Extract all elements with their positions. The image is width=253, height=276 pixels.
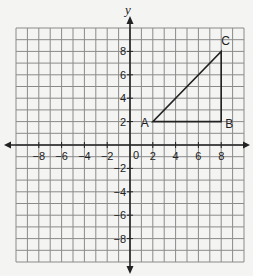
y-tick-label: −6 bbox=[113, 209, 126, 221]
y-tick-label: −8 bbox=[113, 233, 126, 245]
x-tick-label: 4 bbox=[173, 150, 179, 162]
vertex-label-c: C bbox=[221, 34, 230, 48]
x-tick-label: 6 bbox=[195, 150, 201, 162]
x-tick-label: 8 bbox=[218, 150, 224, 162]
y-tick-label: 4 bbox=[120, 92, 126, 104]
x-axis-left-arrow-icon bbox=[4, 142, 11, 149]
x-tick-label: −2 bbox=[101, 150, 114, 162]
y-tick-label: −2 bbox=[113, 162, 126, 174]
x-tick-label: −6 bbox=[55, 150, 68, 162]
y-tick-label: 8 bbox=[120, 45, 126, 57]
y-tick-label: 2 bbox=[120, 116, 126, 128]
y-axis-up-arrow-icon bbox=[127, 16, 134, 24]
vertex-label-a: A bbox=[141, 116, 149, 130]
y-axis-label: y bbox=[123, 2, 131, 17]
y-tick-label: 6 bbox=[120, 69, 126, 81]
x-tick-label: −8 bbox=[33, 150, 46, 162]
axes bbox=[4, 16, 250, 274]
coordinate-plane: −8−6−4−224688642−2−4−6−8 ABC y 0 bbox=[0, 0, 253, 276]
origin-label: 0 bbox=[133, 149, 139, 161]
y-tick-label: −4 bbox=[113, 186, 126, 198]
x-axis-right-arrow-icon bbox=[243, 142, 250, 149]
x-tick-label: 2 bbox=[150, 150, 156, 162]
x-tick-label: −4 bbox=[78, 150, 91, 162]
vertex-label-b: B bbox=[225, 117, 233, 131]
y-axis-down-arrow-icon bbox=[127, 266, 134, 274]
